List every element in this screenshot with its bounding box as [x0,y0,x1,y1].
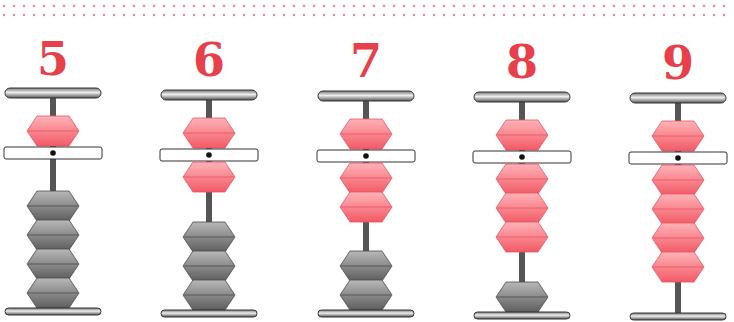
earth-bead-active[interactable] [340,192,392,222]
unit-dot [363,153,369,159]
earth-bead-inactive[interactable] [340,251,392,281]
earth-bead-active[interactable] [183,162,235,192]
earth-bead-active[interactable] [652,194,704,224]
heaven-bead[interactable] [183,118,235,148]
heaven-bead[interactable] [652,121,704,151]
heaven-bead[interactable] [496,120,548,150]
top-rail [161,90,257,100]
earth-bead-active[interactable] [496,222,548,252]
abacus-column-8: 8 [472,0,572,322]
unit-dot [675,155,681,161]
abacus [628,0,728,322]
earth-bead-inactive[interactable] [340,280,392,310]
abacus-column-5: 5 [3,0,103,322]
abacus-column-6: 6 [159,0,259,322]
earth-bead-inactive[interactable] [27,191,79,221]
top-rail [474,92,570,102]
unit-dot [50,150,56,156]
earth-bead-inactive[interactable] [183,251,235,281]
earth-bead-active[interactable] [652,165,704,195]
bottom-rail [5,308,101,315]
earth-bead-active[interactable] [652,252,704,282]
bottom-rail [474,312,570,319]
bottom-rail [318,310,414,317]
bottom-rail [161,310,257,317]
abacus [159,0,259,322]
heaven-bead[interactable] [27,116,79,146]
abacus [3,0,103,322]
abacus-column-9: 9 [628,0,728,322]
earth-bead-active[interactable] [496,164,548,194]
heaven-bead[interactable] [340,119,392,149]
earth-bead-inactive[interactable] [27,249,79,279]
abacus-column-7: 7 [316,0,416,322]
earth-bead-inactive[interactable] [27,220,79,250]
top-rail [318,91,414,101]
earth-bead-active[interactable] [652,223,704,253]
earth-bead-inactive[interactable] [496,282,548,312]
earth-bead-inactive[interactable] [183,222,235,252]
unit-dot [206,152,212,158]
earth-bead-inactive[interactable] [27,278,79,308]
unit-dot [519,154,525,160]
earth-bead-active[interactable] [340,163,392,193]
earth-bead-inactive[interactable] [183,280,235,310]
abacus [316,0,416,322]
top-rail [630,93,726,103]
earth-bead-active[interactable] [496,193,548,223]
top-rail [5,88,101,98]
bottom-rail [630,313,726,320]
abacus [472,0,572,322]
